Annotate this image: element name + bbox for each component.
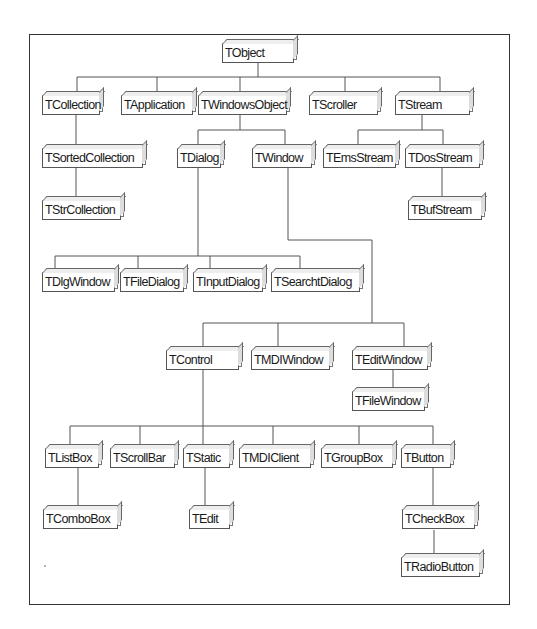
class-node-label: TEditWindow bbox=[355, 353, 422, 367]
class-node-label: TMDIClient bbox=[242, 451, 299, 465]
class-node-tmdiclient: TMDIClient bbox=[239, 448, 311, 468]
class-node-label: TDialog bbox=[180, 151, 219, 165]
class-node-label: TCollection bbox=[45, 98, 101, 112]
class-node-label: TSortedCollection bbox=[45, 151, 134, 165]
class-node-label: TButton bbox=[404, 451, 444, 465]
class-node-tdosstream: TDosStream bbox=[405, 148, 480, 168]
class-node-tsearchtdialog: TSearchtDialog bbox=[271, 272, 360, 292]
class-node-tobject: TObject bbox=[222, 43, 294, 63]
class-node-twindowsobject: TWindowsObject bbox=[198, 95, 287, 115]
class-node-temsstream: TEmsStream bbox=[323, 148, 396, 168]
class-node-label: TEmsStream bbox=[326, 151, 393, 165]
class-node-label: TFileDialog bbox=[123, 275, 180, 289]
class-node-label: TWindow bbox=[255, 151, 303, 165]
class-node-label: TSearchtDialog bbox=[274, 275, 352, 289]
connector-line bbox=[288, 168, 372, 323]
class-node-label: TStrCollection bbox=[45, 203, 115, 217]
class-node-tstream: TStream bbox=[395, 95, 470, 115]
class-node-tgroupbox: TGroupBox bbox=[321, 448, 393, 468]
class-node-label: TRadioButton bbox=[404, 560, 473, 574]
class-node-tbutton: TButton bbox=[401, 448, 451, 468]
class-node-label: TInputDialog bbox=[196, 275, 260, 289]
class-node-tlistbox: TListBox bbox=[45, 448, 99, 468]
class-node-tradiobutton: TRadioButton bbox=[401, 557, 480, 577]
class-node-tscroller: TScroller bbox=[309, 95, 378, 115]
class-node-label: TScroller bbox=[312, 98, 357, 112]
class-node-label: TListBox bbox=[48, 451, 92, 465]
class-node-label: TScrollBar bbox=[113, 451, 165, 465]
class-node-tfiledialog: TFileDialog bbox=[120, 272, 184, 292]
class-node-tbufstream: TBufStream bbox=[408, 200, 482, 220]
class-node-tdialog: TDialog bbox=[177, 148, 221, 168]
class-node-teditwindow: TEditWindow bbox=[352, 350, 428, 370]
class-node-tstrcollection: TStrCollection bbox=[42, 200, 121, 220]
class-node-tsortedcollection: TSortedCollection bbox=[42, 148, 143, 168]
class-node-label: TMDIWindow bbox=[254, 353, 323, 367]
class-node-tedit: TEdit bbox=[189, 509, 230, 529]
class-node-tcheckbox: TCheckBox bbox=[402, 509, 475, 529]
class-node-label: TApplication bbox=[124, 98, 185, 112]
class-node-tapplication: TApplication bbox=[121, 95, 193, 115]
class-node-label: TWindowsObject bbox=[201, 98, 287, 112]
class-node-tdlgwindow: TDlgWindow bbox=[42, 272, 115, 292]
class-node-twindow: TWindow bbox=[252, 148, 312, 168]
class-node-label: TStatic bbox=[186, 451, 221, 465]
class-node-label: TComboBox bbox=[46, 512, 110, 526]
scan-speck bbox=[44, 565, 46, 567]
class-node-label: TDosStream bbox=[408, 151, 472, 165]
class-node-tmdiwindow: TMDIWindow bbox=[251, 350, 330, 370]
class-node-tfilewindow: TFileWindow bbox=[352, 391, 425, 411]
class-node-tcontrol: TControl bbox=[166, 350, 239, 370]
class-node-label: TDlgWindow bbox=[45, 275, 110, 289]
class-node-tinputdialog: TInputDialog bbox=[193, 272, 263, 292]
class-node-tstatic: TStatic bbox=[183, 448, 230, 468]
class-node-label: TGroupBox bbox=[324, 451, 383, 465]
class-node-label: TCheckBox bbox=[405, 512, 464, 526]
class-node-label: TEdit bbox=[192, 512, 218, 526]
class-node-tcombobox: TComboBox bbox=[43, 509, 118, 529]
class-node-label: TStream bbox=[398, 98, 442, 112]
class-node-tscrollbar: TScrollBar bbox=[110, 448, 175, 468]
class-node-label: TBufStream bbox=[411, 203, 472, 217]
class-node-label: TControl bbox=[169, 353, 212, 367]
class-node-label: TObject bbox=[225, 46, 264, 60]
class-node-label: TFileWindow bbox=[355, 394, 421, 408]
class-node-tcollection: TCollection bbox=[42, 95, 100, 115]
